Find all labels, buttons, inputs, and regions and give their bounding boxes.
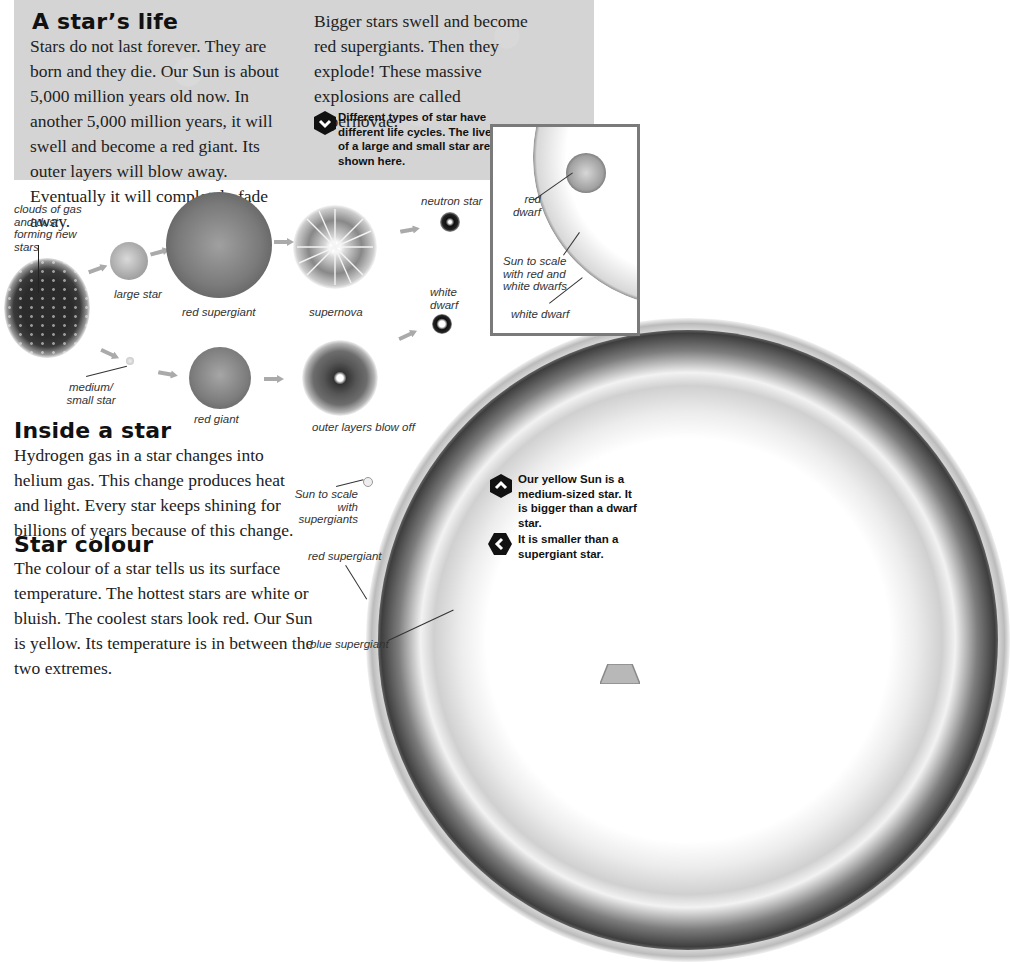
nebula-pointer-line (38, 245, 39, 293)
red-dwarf-label: red dwarf (503, 193, 541, 218)
sun-scale-dot (363, 477, 373, 487)
red-giant (189, 347, 251, 409)
arrow-icon (87, 262, 109, 276)
medium-small-star (126, 357, 134, 365)
medium-small-star-label: medium/ small star (66, 381, 116, 406)
nebula-stars (4, 258, 90, 358)
red-supergiant-big-label: red supergiant (308, 550, 382, 563)
page-corner-hex-tab (600, 664, 640, 684)
inset-white-dwarf-label: white dwarf (511, 308, 569, 321)
outer-layers-label: outer layers blow off (312, 421, 415, 434)
nebula-label: clouds of gas and dust forming new stars (14, 203, 94, 253)
hexagon-chevron-left-icon (488, 533, 512, 555)
star-colour-body: The colour of a star tells us its surfac… (14, 556, 314, 681)
arrow-icon (157, 368, 178, 379)
supergiants-illustration (378, 330, 998, 950)
neutron-star-label: neutron star (421, 195, 482, 208)
medium-star-pointer (86, 366, 127, 377)
supernova-label: supernova (309, 306, 363, 319)
sun-scale-dwarfs-label: Sun to scale with red and white dwarfs (503, 255, 575, 293)
section-title-inside-star: Inside a star (14, 418, 171, 443)
section-title-star-colour: Star colour (14, 532, 153, 557)
hexagon-chevron-down-icon (314, 111, 336, 135)
arrow-icon (399, 224, 420, 235)
outer-layers-nebula (302, 340, 378, 416)
arrow-icon (274, 238, 294, 246)
large-star-label: large star (114, 288, 162, 301)
inside-star-body: Hydrogen gas in a star changes into heli… (14, 443, 299, 543)
red-supergiant (166, 192, 272, 298)
red-giant-label: red giant (194, 413, 239, 426)
sun-note-2: It is smaller than a supergiant star. (518, 532, 638, 561)
sun-scale-supergiants-label: Sun to scale with supergiants (278, 488, 358, 526)
sun-note-1: Our yellow Sun is a medium-sized star. I… (518, 472, 638, 530)
dwarf-inset-panel: red dwarf Sun to scale with red and whit… (490, 124, 640, 336)
supernova-rays (293, 205, 377, 289)
hexagon-chevron-up-icon (490, 474, 512, 498)
red-supergiant-label: red supergiant (182, 306, 256, 319)
intro-note: Different types of star have different l… (338, 110, 508, 168)
sun-scale-pointer-line (336, 479, 363, 487)
blue-supergiant-label: blue supergiant (310, 638, 389, 651)
arrow-icon (264, 375, 284, 383)
section-title-star-life: A star’s life (32, 9, 178, 34)
neutron-star (440, 212, 460, 232)
large-star (110, 242, 148, 280)
white-dwarf (432, 314, 452, 334)
arrow-icon (99, 346, 121, 362)
red-supergiant-pointer (345, 565, 367, 599)
arrow-icon (397, 327, 419, 343)
white-dwarf-label: white dwarf (430, 286, 460, 311)
